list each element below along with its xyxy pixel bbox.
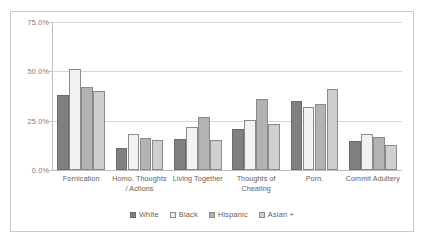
bar <box>93 91 105 170</box>
x-tick-label: Commit Adultery <box>344 174 402 184</box>
bar-group <box>344 22 402 170</box>
legend-swatch-icon <box>130 212 136 218</box>
bar <box>116 148 128 170</box>
bar-group <box>52 22 110 170</box>
y-axis: 0.0%25.0%50.0%75.0% <box>6 22 49 171</box>
bar <box>198 117 210 170</box>
bar <box>152 140 164 170</box>
bar <box>140 138 152 170</box>
bar <box>256 99 268 170</box>
bar-group <box>169 22 227 170</box>
bar <box>81 87 93 170</box>
bar <box>57 95 69 170</box>
legend-swatch-icon <box>209 212 215 218</box>
legend-label: Black <box>179 210 198 219</box>
legend-label: Hispanic <box>218 210 248 219</box>
bar <box>349 141 361 170</box>
x-tick-label: Fornication <box>52 174 110 184</box>
bar-chart-figure: 0.0%25.0%50.0%75.0% FornicationHomo. Tho… <box>0 0 425 244</box>
plot-area <box>52 22 402 171</box>
bar <box>128 134 140 171</box>
y-tick-label: 0.0% <box>9 166 49 175</box>
bar <box>174 139 186 170</box>
chart-legend: WhiteBlackHispanicAsian + <box>10 210 414 219</box>
bar <box>69 69 81 170</box>
legend-item[interactable]: Hispanic <box>209 210 248 219</box>
bar <box>385 145 397 170</box>
legend-item[interactable]: Asian + <box>259 210 294 219</box>
bar-group <box>110 22 168 170</box>
bar <box>303 107 315 170</box>
x-tick-label: Porn. <box>285 174 343 184</box>
bar-group <box>227 22 285 170</box>
legend-item[interactable]: Black <box>170 210 198 219</box>
y-tick-label: 75.0% <box>9 18 49 27</box>
bar <box>232 129 244 170</box>
y-tick-label: 25.0% <box>9 116 49 125</box>
x-tick-label: Thoughts of Cheating <box>227 174 285 193</box>
bar <box>244 120 256 170</box>
legend-item[interactable]: White <box>130 210 159 219</box>
bar <box>186 127 198 170</box>
legend-swatch-icon <box>259 212 265 218</box>
legend-label: White <box>139 210 159 219</box>
x-axis-line <box>52 170 402 171</box>
y-tick-label: 50.0% <box>9 67 49 76</box>
bar <box>291 101 303 170</box>
bar <box>210 140 222 170</box>
legend-label: Asian + <box>268 210 294 219</box>
x-tick-label: Living Together <box>169 174 227 184</box>
x-axis: FornicationHomo. Thoughts / ActionsLivin… <box>52 174 402 208</box>
bar <box>315 104 327 170</box>
legend-swatch-icon <box>170 212 176 218</box>
bar <box>268 124 280 170</box>
bar <box>373 137 385 170</box>
x-tick-label: Homo. Thoughts / Actions <box>110 174 168 193</box>
bar <box>327 89 339 170</box>
bar <box>361 134 373 171</box>
bar-group <box>285 22 343 170</box>
